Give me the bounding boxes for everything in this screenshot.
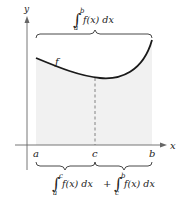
lower-limit-a: a <box>53 189 57 197</box>
point-label-b: b <box>149 148 155 159</box>
curve-label-f: f <box>54 56 61 67</box>
lower-limit-c: c <box>115 189 119 197</box>
point-label-a: a <box>33 148 39 159</box>
integrand: f(x) dx <box>82 14 114 25</box>
lower-limit-a: a <box>74 24 78 32</box>
y-axis-label: y <box>23 4 30 14</box>
bottom-brace-right <box>95 162 152 170</box>
integrand-right: f(x) dx <box>123 178 155 189</box>
y-axis-arrow-icon <box>25 16 30 23</box>
bottom-integral-expression: ∫ c a f(x) dx + ∫ b c f(x) dx <box>52 172 155 197</box>
integrand-left: f(x) dx <box>61 178 93 189</box>
bottom-brace-left <box>36 162 95 170</box>
top-integral-expression: ∫ b a f(x) dx <box>73 7 114 32</box>
x-axis-label: x <box>170 140 176 151</box>
plus-operator: + <box>103 178 111 189</box>
integral-additivity-diagram: x y f ∫ b a f(x) dx a c b ∫ c a f(x) dx … <box>0 0 184 198</box>
top-brace <box>36 30 152 38</box>
x-axis-arrow-icon <box>160 143 167 148</box>
shaded-area <box>36 40 152 145</box>
point-label-c: c <box>92 148 98 159</box>
